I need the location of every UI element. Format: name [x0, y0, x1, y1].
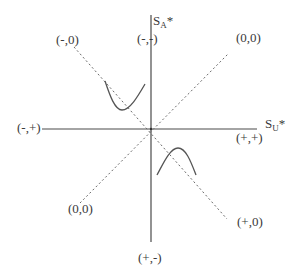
label-left: (-,+) — [17, 121, 41, 134]
label-bottom-left: (0,0) — [68, 202, 93, 215]
horizontal-axis-star: * — [279, 116, 286, 131]
label-right: (+,+) — [236, 131, 263, 144]
dashed-line-positive-slope — [80, 53, 229, 203]
label-top-right: (0,0) — [236, 31, 261, 44]
horizontal-axis-label: SU* — [265, 117, 285, 133]
label-bottom-right: (+,0) — [237, 215, 263, 228]
origin-point — [150, 128, 152, 130]
label-top-left: (-,0) — [56, 33, 79, 46]
label-top: (-,-) — [137, 32, 158, 45]
upper-left-curve — [105, 81, 145, 110]
vertical-axis-star: * — [167, 13, 174, 28]
label-bottom: (+,-) — [138, 251, 162, 264]
vertical-axis-label: SA* — [153, 14, 173, 30]
